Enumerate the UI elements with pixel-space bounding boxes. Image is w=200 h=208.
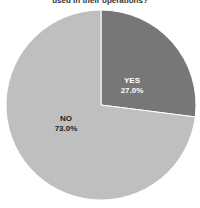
yes-category: YES — [112, 76, 152, 86]
no-category: NO — [46, 114, 86, 124]
yes-label: YES 27.0% — [112, 76, 152, 96]
pie-chart — [0, 0, 200, 208]
no-label: NO 73.0% — [46, 114, 86, 134]
no-percent: 73.0% — [46, 124, 86, 134]
yes-percent: 27.0% — [112, 86, 152, 96]
pie-slice-yes — [101, 10, 196, 117]
